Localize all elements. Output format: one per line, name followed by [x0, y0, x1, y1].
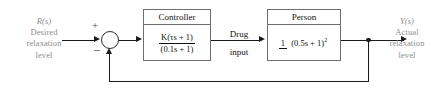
input-signal-label: R(s) Desired relaxation level: [8, 16, 80, 61]
person-denominator-base: (0.5s + 1): [291, 38, 324, 48]
input-wire-arrowhead: [94, 36, 100, 42]
feedback-wire-arrowhead: [106, 48, 112, 54]
feedback-wire-right-vertical: [368, 40, 369, 82]
person-denominator-exponent: 2: [324, 37, 327, 43]
output-desc-line-1: Actual: [395, 27, 418, 37]
input-desc-line-3: level: [35, 50, 52, 60]
output-signal-label: Y(s) Actual relaxation level: [372, 16, 442, 61]
error-signal-wire: [119, 40, 137, 41]
input-desc-line-1: Desired: [30, 27, 57, 37]
drug-input-label: Drug input: [214, 25, 264, 61]
output-desc-line-3: level: [398, 50, 415, 60]
controller-transfer-function: K(τs + 1) (0.1s + 1): [144, 25, 210, 61]
output-symbol: Y(s): [400, 16, 414, 26]
person-numerator: 1: [279, 38, 287, 50]
person-block: Person 1 (0.5s + 1)2: [267, 9, 341, 61]
summing-junction: [101, 31, 119, 49]
drug-input-line-1: Drug: [230, 29, 249, 39]
controller-block: Controller K(τs + 1) (0.1s + 1): [143, 9, 211, 61]
output-desc-line-2: relaxation: [390, 38, 425, 48]
person-block-title: Person: [268, 10, 340, 25]
input-wire: [62, 40, 95, 41]
input-symbol: R(s): [37, 16, 52, 26]
feedback-wire-bottom-horizontal: [109, 81, 369, 82]
feedback-wire-left-vertical: [109, 54, 110, 82]
error-signal-arrowhead: [136, 36, 142, 42]
control-system-block-diagram: R(s) Desired relaxation level + − Contro…: [0, 0, 443, 96]
summing-junction-plus-sign: +: [92, 20, 98, 31]
drug-input-line-2: input: [230, 47, 249, 57]
controller-denominator: (0.1s + 1): [159, 43, 196, 54]
summing-junction-minus-sign: −: [93, 45, 100, 56]
person-denominator: (0.5s + 1)2: [289, 37, 329, 48]
input-desc-line-2: relaxation: [27, 38, 62, 48]
person-transfer-function: 1 (0.5s + 1)2: [268, 25, 340, 61]
controller-block-title: Controller: [144, 10, 210, 25]
controller-numerator: K(τs + 1): [159, 32, 195, 44]
